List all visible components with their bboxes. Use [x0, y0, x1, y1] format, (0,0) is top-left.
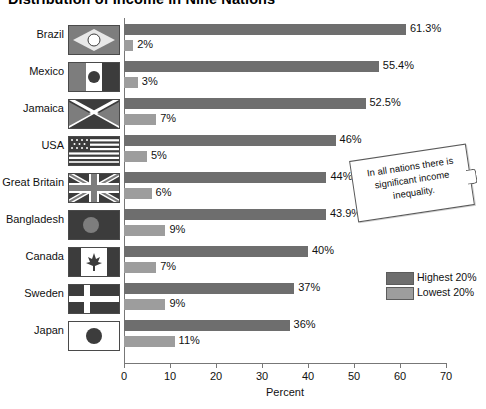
bar-lo — [124, 77, 138, 88]
bar-lo — [124, 225, 165, 236]
bar-row: 61.3%2% — [124, 22, 446, 59]
category-label: Bangladesh — [6, 213, 64, 225]
x-tick — [446, 363, 447, 368]
x-tick — [216, 363, 217, 368]
legend-swatch-lowest — [386, 287, 414, 300]
x-tick — [400, 363, 401, 368]
x-tick-label: 60 — [394, 370, 406, 382]
category-label: Japan — [34, 324, 64, 336]
flag-jamaica-icon — [68, 99, 120, 129]
category-mexico: Mexico — [0, 59, 124, 96]
bar-lo — [124, 114, 156, 125]
x-tick-label: 10 — [164, 370, 176, 382]
flag-canada-icon — [68, 247, 120, 277]
x-axis-label: Percent — [124, 386, 446, 398]
bar-value-label: 6% — [156, 186, 172, 198]
flag-bangladesh-icon — [68, 210, 120, 240]
bar-value-label: 37% — [298, 281, 320, 293]
bar-value-label: 2% — [137, 38, 153, 50]
category-japan: Japan — [0, 318, 124, 355]
x-axis-line — [124, 363, 446, 364]
bar-value-label: 61.3% — [410, 22, 441, 34]
bar-value-label: 7% — [160, 260, 176, 272]
category-label: Canada — [25, 250, 64, 262]
x-tick — [170, 363, 171, 368]
x-tick — [308, 363, 309, 368]
flag-usa-icon — [68, 136, 120, 166]
bar-value-label: 55.4% — [383, 59, 414, 71]
category-label: USA — [41, 139, 64, 151]
legend-label-lowest: Lowest 20% — [417, 286, 474, 298]
bar-hi — [124, 320, 290, 331]
bar-value-label: 9% — [169, 297, 185, 309]
bar-hi — [124, 246, 308, 257]
category-brazil: Brazil — [0, 22, 124, 59]
bar-value-label: 11% — [179, 334, 200, 346]
flag-brazil-icon — [68, 25, 120, 55]
chart-title: Distribution of Income in Nine Nations — [8, 0, 275, 7]
bar-hi — [124, 98, 366, 109]
category-label: Mexico — [29, 65, 64, 77]
x-tick — [354, 363, 355, 368]
flag-great-britain-icon — [68, 173, 120, 203]
category-jamaica: Jamaica — [0, 96, 124, 133]
bar-lo — [124, 262, 156, 273]
bar-lo — [124, 40, 133, 51]
bar-hi — [124, 24, 406, 35]
bar-value-label: 7% — [160, 112, 176, 124]
bar-lo — [124, 188, 152, 199]
category-label: Great Britain — [2, 176, 64, 188]
bar-value-label: 9% — [169, 223, 185, 235]
bar-hi — [124, 172, 326, 183]
category-label: Jamaica — [23, 102, 64, 114]
bar-hi — [124, 61, 379, 72]
flag-japan-icon — [68, 321, 120, 351]
category-canada: Canada — [0, 244, 124, 281]
bar-value-label: 44% — [330, 170, 352, 182]
legend-label-highest: Highest 20% — [417, 271, 477, 283]
bar-row: 36%11% — [124, 318, 446, 355]
x-tick-label: 70 — [440, 370, 452, 382]
x-tick-label: 0 — [121, 370, 127, 382]
x-tick-label: 50 — [348, 370, 360, 382]
bar-value-label: 5% — [151, 149, 167, 161]
x-tick-label: 20 — [210, 370, 222, 382]
income-distribution-chart: Distribution of Income in Nine Nations 0… — [0, 0, 486, 409]
bar-value-label: 40% — [312, 244, 334, 256]
legend-swatch-highest — [386, 272, 414, 285]
category-sweden: Sweden — [0, 281, 124, 318]
bar-value-label: 36% — [294, 318, 316, 330]
callout-fold-icon — [466, 168, 478, 184]
x-tick-label: 30 — [256, 370, 268, 382]
bar-hi — [124, 209, 326, 220]
x-tick — [124, 363, 125, 368]
bar-lo — [124, 151, 147, 162]
bar-hi — [124, 135, 336, 146]
bar-value-label: 52.5% — [370, 96, 401, 108]
x-tick — [262, 363, 263, 368]
bar-lo — [124, 299, 165, 310]
x-tick-label: 40 — [302, 370, 314, 382]
bar-hi — [124, 283, 294, 294]
category-bangladesh: Bangladesh — [0, 207, 124, 244]
bar-value-label: 3% — [142, 75, 158, 87]
category-usa: USA — [0, 133, 124, 170]
category-label: Sweden — [24, 287, 64, 299]
category-label: Brazil — [36, 28, 64, 40]
bar-value-label: 46% — [340, 133, 362, 145]
bar-row: 55.4%3% — [124, 59, 446, 96]
bar-row: 52.5%7% — [124, 96, 446, 133]
flag-mexico-icon — [68, 62, 120, 92]
bar-lo — [124, 336, 175, 347]
flag-sweden-icon — [68, 284, 120, 314]
category-great-britain: Great Britain — [0, 170, 124, 207]
